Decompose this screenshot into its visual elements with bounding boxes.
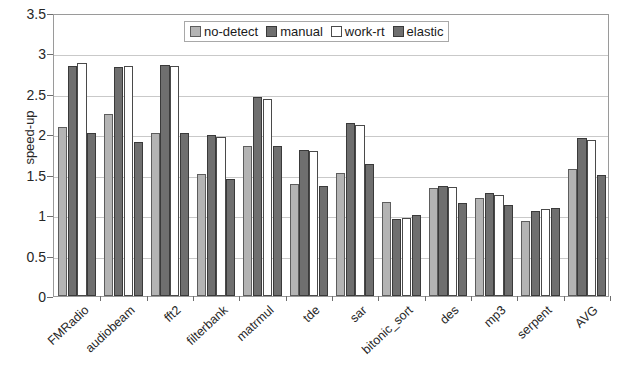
bar <box>290 184 299 296</box>
x-category-label: tde <box>301 303 323 325</box>
bar <box>170 66 179 296</box>
x-tick-mark <box>147 296 148 301</box>
bar <box>309 151 318 296</box>
legend-swatch-icon <box>393 26 404 37</box>
gridline <box>54 136 608 137</box>
x-tick-mark <box>239 296 240 301</box>
legend-swatch-icon <box>331 26 342 37</box>
bar <box>355 125 364 296</box>
bar <box>336 173 345 296</box>
bar <box>597 175 606 296</box>
bar <box>504 205 513 296</box>
bar <box>494 195 503 296</box>
bar <box>319 186 328 296</box>
bar <box>68 66 77 296</box>
x-tick-mark <box>193 296 194 301</box>
y-tick-label: 0.5 <box>0 249 46 265</box>
bar <box>104 114 113 296</box>
plot-area <box>53 14 609 297</box>
x-category-label: des <box>438 303 462 327</box>
bar <box>429 188 438 296</box>
gridline <box>54 55 608 56</box>
gridline <box>54 96 608 97</box>
legend-label: no-detect <box>204 24 258 39</box>
legend-swatch-icon <box>190 26 201 37</box>
bar <box>485 193 494 296</box>
y-tick-label: 2 <box>0 127 46 143</box>
legend-item: elastic <box>393 24 444 39</box>
y-tick-label: 2.5 <box>0 87 46 103</box>
bar <box>475 198 484 296</box>
bar <box>541 209 550 296</box>
bar <box>402 218 411 296</box>
bar <box>551 208 560 296</box>
bar <box>412 215 421 296</box>
x-tick-mark <box>332 296 333 301</box>
bar <box>458 203 467 296</box>
bar <box>197 174 206 296</box>
x-tick-mark <box>517 296 518 301</box>
bar <box>365 164 374 296</box>
x-tick-mark <box>100 296 101 301</box>
x-category-label: AVG <box>573 303 601 331</box>
y-tick-label: 3.5 <box>0 6 46 22</box>
x-category-label: sar <box>347 303 369 325</box>
bar <box>587 140 596 296</box>
bar <box>124 66 133 296</box>
bar <box>87 133 96 296</box>
x-category-label: fft2 <box>162 303 184 325</box>
x-tick-mark <box>378 296 379 301</box>
bar <box>273 146 282 296</box>
x-category-label: matrmul <box>234 303 277 344</box>
x-tick-mark <box>425 296 426 301</box>
bar <box>577 138 586 296</box>
bar-chart: speed-up 00.511.522.533.5 FMRadioaudiobe… <box>0 0 619 383</box>
bar <box>207 135 216 296</box>
x-category-label: audiobeam <box>83 303 138 355</box>
bar <box>180 133 189 296</box>
bar <box>114 67 123 296</box>
bar <box>392 219 401 296</box>
y-tick-label: 1 <box>0 208 46 224</box>
x-tick-mark <box>286 296 287 301</box>
legend-label: manual <box>280 24 323 39</box>
bar <box>160 65 169 296</box>
legend-label: elastic <box>407 24 444 39</box>
bar <box>438 186 447 296</box>
bar <box>77 63 86 296</box>
bar <box>299 150 308 296</box>
x-tick-mark <box>471 296 472 301</box>
bar <box>382 202 391 296</box>
y-tick-label: 1.5 <box>0 168 46 184</box>
bar <box>346 123 355 296</box>
x-category-label: mp3 <box>481 303 508 330</box>
bar <box>521 221 530 296</box>
bar <box>448 187 457 296</box>
legend-item: manual <box>266 24 323 39</box>
y-tick-mark <box>47 297 53 298</box>
legend-item: no-detect <box>190 24 258 39</box>
x-category-label: FMRadio <box>45 303 92 348</box>
bar <box>216 137 225 296</box>
y-tick-label: 0 <box>0 289 46 305</box>
legend-label: work-rt <box>345 24 385 39</box>
y-tick-label: 3 <box>0 46 46 62</box>
chart-legend: no-detectmanualwork-rtelastic <box>184 21 449 42</box>
legend-item: work-rt <box>331 24 385 39</box>
bar <box>243 146 252 296</box>
x-category-label: filterbank <box>184 303 231 348</box>
bar <box>226 179 235 296</box>
bar <box>58 127 67 296</box>
bar <box>134 142 143 296</box>
legend-swatch-icon <box>266 26 277 37</box>
bar <box>151 133 160 296</box>
bar <box>253 97 262 296</box>
x-tick-mark <box>564 296 565 301</box>
bar <box>263 99 272 296</box>
bar <box>568 169 577 296</box>
x-category-label: serpent <box>515 303 555 342</box>
bar <box>531 211 540 296</box>
x-tick-mark <box>610 296 611 301</box>
